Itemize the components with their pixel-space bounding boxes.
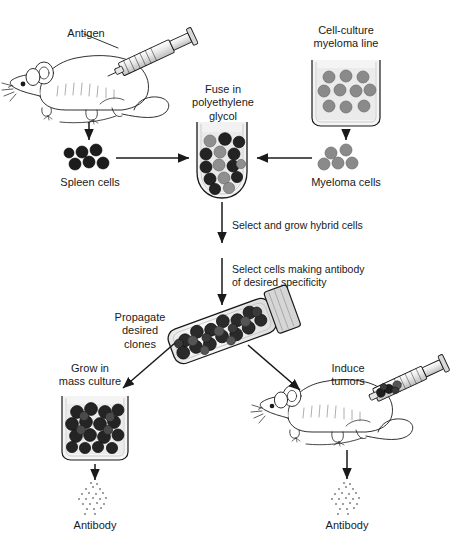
antibody-stipple-right (331, 482, 360, 515)
label-select-grow-hybrid-cells: Select and grow hybrid cells (232, 219, 382, 232)
mass-culture-beaker (62, 396, 128, 460)
label-select-antibody-specificity: Select cells making antibody of desired … (232, 263, 392, 289)
clone-propagation-tube (164, 284, 301, 370)
label-antigen: Antigen (56, 27, 116, 40)
label-antibody-left: Antibody (62, 519, 128, 532)
label-myeloma-cells: Myeloma cells (298, 176, 394, 189)
label-fuse-in-polyethylene-glycol: Fuse in polyethylene glycol (177, 83, 269, 123)
fusion-tube (197, 122, 247, 198)
label-propagate-desired-clones: Propagate desired clones (109, 311, 171, 351)
label-induce-tumors: Induce tumors (318, 362, 378, 389)
antibody-stipple-left (78, 482, 107, 515)
label-grow-in-mass-culture: Grow in mass culture (51, 362, 129, 389)
label-spleen-cells: Spleen cells (45, 176, 135, 189)
arrow-clone-to-mouse (248, 345, 300, 390)
label-cell-culture-myeloma-line: Cell-culture myeloma line (291, 24, 401, 51)
hybridoma-cells-mass-culture (66, 403, 124, 454)
mouse-antigen-injection (2, 27, 198, 124)
myeloma-culture-beaker (312, 60, 380, 126)
myeloma-cell-cluster (318, 144, 358, 170)
hybridoma-diagram: Antigen Cell-culture myeloma line Fuse i… (0, 0, 470, 545)
spleen-cell-cluster (64, 144, 109, 170)
label-antibody-right: Antibody (314, 519, 380, 532)
